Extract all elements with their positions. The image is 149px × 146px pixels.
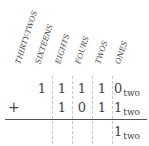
base-subscript: two: [123, 88, 140, 98]
addend2-digit-eights: 1: [56, 101, 68, 114]
addend2-digit-fours: 0: [76, 101, 88, 114]
column-divider: [52, 76, 53, 144]
column-divider: [72, 76, 73, 144]
sum-digit-ones: 1two: [114, 125, 140, 140]
column-divider: [92, 76, 93, 144]
plus-operator: +: [8, 101, 20, 114]
addend2-ones-value: 1: [114, 100, 122, 115]
column-label-fours: FOURS: [73, 35, 90, 65]
addend1-digit-twos: 1: [96, 82, 108, 95]
addend1-digit-ones: 0two: [114, 82, 140, 97]
column-label-eights: EIGHTS: [53, 33, 71, 65]
column-label-ones: ONES: [113, 40, 129, 65]
sum-rule: [5, 119, 147, 120]
addend1-digit-eights: 1: [56, 82, 68, 95]
column-label-sixteens: SIXTEENS: [33, 23, 54, 65]
addend1-digit-fours: 1: [76, 82, 88, 95]
base-subscript: two: [123, 107, 140, 117]
column-divider: [112, 76, 113, 144]
column-label-twos: TWOS: [93, 39, 109, 65]
addend1-ones-value: 0: [114, 81, 122, 96]
addend2-digit-twos: 1: [96, 101, 108, 114]
sum-ones-value: 1: [114, 124, 122, 139]
base-subscript: two: [123, 131, 140, 141]
addend2-digit-ones: 1two: [114, 101, 140, 116]
addend1-digit-sixteens: 1: [36, 82, 48, 95]
